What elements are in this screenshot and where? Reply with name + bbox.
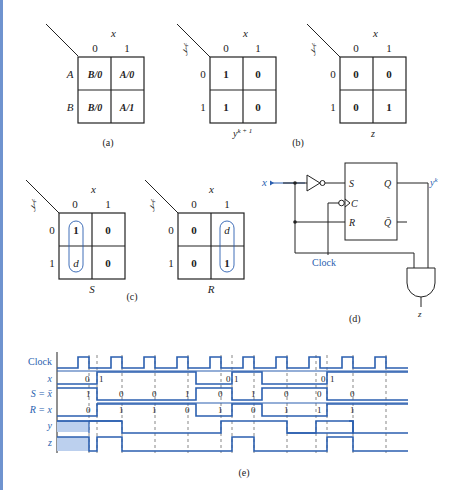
sig-label-s: S = x̄: [31, 388, 53, 399]
s-col-h0: 0: [72, 198, 78, 210]
b1-label: yk + 1: [232, 127, 252, 139]
a-col-var: x: [110, 27, 116, 39]
svg-text:yk: yk: [145, 197, 160, 212]
sig-label-clock: Clock: [28, 356, 52, 367]
r-val-4: 1: [218, 405, 223, 415]
b2-label: z: [370, 128, 375, 139]
s-cell-10: d: [73, 257, 79, 269]
b2-row-h1: 1: [330, 101, 336, 113]
b1-col-var: x: [242, 27, 248, 39]
b1-col-h1: 1: [255, 42, 261, 54]
x-val-3: 1: [234, 374, 239, 384]
sig-label-r: R = x: [29, 404, 53, 415]
b1-row-h0: 0: [200, 68, 206, 80]
ff-pin-r: R: [348, 217, 355, 228]
panel-b-map-next-state: yk x 0 1 0 1 1 0 1 0 yk + 1 (b): [177, 24, 304, 149]
y-unknown-shade: [57, 421, 89, 432]
b1-row-h1: 1: [200, 101, 206, 113]
r-cell-10: 0: [191, 257, 197, 269]
z-unknown-shade: [57, 437, 89, 451]
s-cell-01: 0: [105, 224, 111, 236]
s-cell-00: 1: [73, 224, 79, 236]
a-cell-01: A/0: [119, 69, 134, 80]
s-row-h0: 0: [49, 224, 55, 236]
d-caption: (d): [349, 313, 361, 325]
r-val-8: 1: [350, 405, 355, 415]
ff-pin-q: Q: [384, 178, 392, 189]
s-label: S: [89, 283, 95, 295]
and-output-z-label: z: [417, 309, 422, 319]
b1-cell-11: 0: [255, 101, 261, 113]
and-gate: [407, 268, 435, 297]
svg-text:yk: yk: [306, 41, 321, 56]
r-val-2: 1: [152, 405, 157, 415]
s-val-7: 0: [317, 389, 322, 399]
ff-pin-c: C: [351, 198, 358, 209]
x-val-5: 1: [330, 374, 335, 384]
b2-cell-11: 1: [386, 101, 392, 113]
s-val-4: 0: [218, 389, 223, 399]
svg-text:yk: yk: [178, 41, 193, 56]
r-col-var: x: [208, 183, 214, 195]
z-waveform: [57, 437, 408, 451]
panel-e-timing: Clock x S = x̄ R = x y z: [28, 352, 408, 479]
a-caption: (a): [102, 137, 113, 149]
figure-canvas: x 0 1 A B B/0 A/0 B/0 A/1 (a) yk x 0 1 0…: [0, 0, 454, 490]
s-row-h1: 1: [49, 257, 55, 269]
a-row-h0: A: [66, 68, 74, 80]
r-val-1: 1: [119, 405, 124, 415]
b2-col-var: x: [372, 27, 378, 39]
b2-cell-01: 0: [386, 68, 392, 80]
r-row-h0: 0: [168, 224, 174, 236]
r-cell-11: 1: [224, 257, 230, 269]
sig-label-y: y: [47, 420, 53, 431]
r-col-h0: 0: [191, 198, 197, 210]
s-val-6: 0: [284, 389, 289, 399]
x-val-1: 1: [99, 374, 104, 384]
sig-label-x: x: [47, 373, 53, 384]
b1-cell-00: 1: [223, 68, 229, 80]
b2-row-h0: 0: [330, 68, 336, 80]
a-cell-00: B/0: [87, 69, 102, 80]
r-val-6: 1: [284, 405, 289, 415]
c-caption: (c): [126, 291, 137, 303]
r-val-0: 0: [86, 405, 91, 415]
b-caption: (b): [292, 137, 304, 149]
s-val-3: 1: [185, 389, 190, 399]
panel-c-map-r: yk x 0 1 0 1 0 d 0 1 R: [145, 180, 244, 295]
s-val-0: 1: [86, 389, 91, 399]
s-col-var: x: [90, 183, 96, 195]
r-waveform: [57, 404, 408, 416]
b1-cell-10: 1: [223, 101, 229, 113]
x-val-2: 0: [226, 374, 231, 384]
r-val-5: 0: [251, 405, 256, 415]
b1-col-h0: 0: [223, 42, 229, 54]
panel-d-circuit: x S C R Q Q̄ Clock yk z (d): [261, 163, 438, 325]
r-col-h1: 1: [224, 198, 230, 210]
b2-col-h0: 0: [353, 42, 359, 54]
s-waveform: [57, 388, 408, 400]
clock-label: Clock: [312, 257, 336, 268]
a-col-h0: 0: [92, 42, 98, 54]
b2-cell-10: 0: [353, 101, 359, 113]
a-row-h1: B: [67, 101, 74, 113]
panel-c-map-s: yk x 0 1 0 1 1 0 d 0 S (c): [26, 180, 138, 303]
r-row-h1: 1: [168, 257, 174, 269]
r-label: R: [207, 283, 215, 295]
b2-cell-00: 0: [353, 68, 359, 80]
panel-a-state-table: x 0 1 A B B/0 A/0 B/0 A/1 (a): [46, 24, 144, 149]
panel-b-map-output: yk x 0 1 0 1 0 0 0 1 z: [306, 24, 406, 139]
r-val-3: 0: [185, 405, 190, 415]
x-val-4: 0: [321, 374, 326, 384]
r-cell-01: d: [224, 224, 230, 236]
r-val-7: 1: [317, 405, 322, 415]
s-cell-11: 0: [105, 257, 111, 269]
b2-col-h1: 1: [386, 42, 392, 54]
circuit-output-yk-label: yk: [429, 176, 438, 188]
s-val-2: 0: [152, 389, 157, 399]
s-val-1: 0: [119, 389, 124, 399]
clock-waveform: [57, 357, 408, 368]
ff-pin-qbar: Q̄: [384, 217, 392, 228]
s-val-5: 1: [251, 389, 256, 399]
s-val-8: 0: [350, 389, 355, 399]
